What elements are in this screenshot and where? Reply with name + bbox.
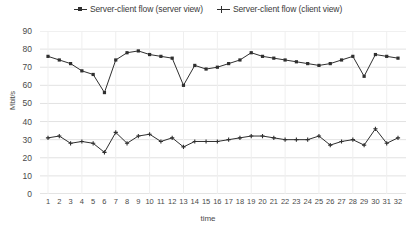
- x-tick-label: 25: [315, 197, 323, 206]
- x-tick-label: 2: [57, 197, 61, 206]
- x-tick-label: 8: [125, 197, 129, 206]
- y-tick-label: 30: [23, 135, 32, 145]
- x-tick-label: 1: [46, 197, 50, 206]
- x-tick-label: 4: [80, 197, 84, 206]
- y-tick-label: 0: [27, 189, 32, 199]
- series-client-view: [46, 127, 400, 155]
- x-tick-label: 32: [394, 197, 402, 206]
- legend-item-server-view[interactable]: Server-client flow (server view): [74, 4, 203, 14]
- x-tick-label: 12: [168, 197, 176, 206]
- x-tick-label: 13: [179, 197, 187, 206]
- y-tick-label: 20: [23, 153, 32, 163]
- x-tick-label: 22: [281, 197, 289, 206]
- chart-legend: Server-client flow (server view) Server-…: [0, 4, 416, 14]
- y-axis-ticks: 0102030405060708090: [0, 31, 36, 194]
- plot-area: [40, 31, 406, 194]
- x-tick-label: 26: [326, 197, 334, 206]
- x-tick-label: 10: [145, 197, 153, 206]
- legend-label: Server-client flow (server view): [90, 4, 203, 14]
- x-axis-title: time: [0, 214, 416, 223]
- x-tick-label: 18: [236, 197, 244, 206]
- x-tick-label: 30: [371, 197, 379, 206]
- y-tick-label: 70: [23, 62, 32, 72]
- y-tick-label: 80: [23, 44, 32, 54]
- x-tick-label: 19: [247, 197, 255, 206]
- cross-marker-icon: [217, 5, 230, 14]
- series-server-view: [46, 49, 399, 94]
- y-tick-label: 40: [23, 117, 32, 127]
- x-tick-label: 27: [337, 197, 345, 206]
- chart-series: [40, 31, 406, 194]
- square-marker-icon: [74, 5, 87, 14]
- y-tick-label: 50: [23, 98, 32, 108]
- x-tick-label: 15: [202, 197, 210, 206]
- x-tick-label: 6: [102, 197, 106, 206]
- x-tick-label: 11: [157, 197, 165, 206]
- legend-label: Server-client flow (client view): [233, 4, 342, 14]
- y-tick-label: 60: [23, 80, 32, 90]
- x-tick-label: 3: [68, 197, 72, 206]
- line-chart: Server-client flow (server view) Server-…: [0, 0, 416, 236]
- x-tick-label: 21: [270, 197, 278, 206]
- x-tick-label: 28: [349, 197, 357, 206]
- x-tick-label: 31: [383, 197, 391, 206]
- x-tick-label: 20: [258, 197, 266, 206]
- x-tick-label: 24: [304, 197, 312, 206]
- x-tick-label: 29: [360, 197, 368, 206]
- y-tick-label: 10: [23, 171, 32, 181]
- x-tick-label: 9: [136, 197, 140, 206]
- x-tick-label: 5: [91, 197, 95, 206]
- x-tick-label: 16: [213, 197, 221, 206]
- x-tick-label: 23: [292, 197, 300, 206]
- y-axis-title: Mbit/s: [8, 77, 17, 125]
- legend-item-client-view[interactable]: Server-client flow (client view): [217, 4, 342, 14]
- x-tick-label: 17: [224, 197, 232, 206]
- x-tick-label: 14: [191, 197, 199, 206]
- x-axis-ticks: 1234567891011121314151617181920212223242…: [40, 197, 406, 209]
- y-tick-label: 90: [23, 26, 32, 36]
- x-tick-label: 7: [114, 197, 118, 206]
